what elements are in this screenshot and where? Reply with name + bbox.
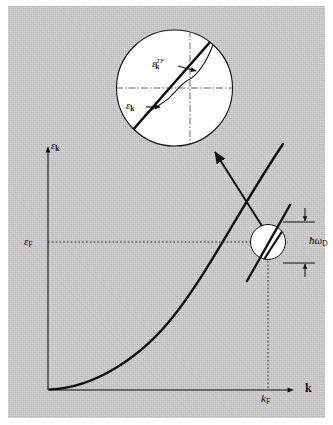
debye-energy-label: ħωD — [309, 234, 328, 248]
diagram-canvas — [0, 0, 333, 425]
y-axis-label: εk — [51, 139, 60, 153]
x-axis-arrowhead — [288, 388, 295, 393]
y-axis-arrowhead — [46, 146, 51, 153]
fermi-wavevector-label: kF — [261, 392, 270, 406]
inset-magnifier — [116, 30, 233, 147]
physics-figure: εk k εF kF ħωD εTFk εk — [0, 0, 333, 425]
fermi-energy-label: εF — [24, 235, 33, 249]
inset-tf-label: εTFk — [152, 57, 159, 71]
dispersion-parabola — [50, 144, 283, 390]
inset-bare-label: εk — [126, 99, 135, 113]
x-axis-label: k — [305, 381, 312, 396]
